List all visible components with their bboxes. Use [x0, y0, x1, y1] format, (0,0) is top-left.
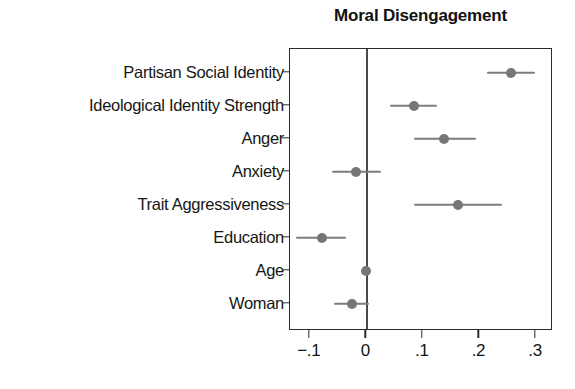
chart-title: Moral Disengagement	[289, 6, 552, 26]
y-axis-tick	[282, 137, 289, 138]
point-estimate-marker	[506, 68, 516, 78]
point-estimate-marker	[453, 200, 463, 210]
zero-reference-line	[366, 49, 367, 329]
point-estimate-marker	[439, 134, 449, 144]
y-axis-category-label: Trait Aggressiveness	[137, 195, 284, 212]
y-axis-category-label: Ideological Identity Strength	[89, 96, 284, 113]
x-axis-tick-label: .3	[528, 341, 542, 361]
y-axis-tick	[282, 302, 289, 303]
y-axis-tick	[282, 269, 289, 270]
y-axis-tick	[282, 170, 289, 171]
x-axis-tick-label: .1	[415, 341, 429, 361]
point-estimate-marker	[317, 233, 327, 243]
y-axis-tick	[282, 71, 289, 72]
point-estimate-marker	[409, 101, 419, 111]
y-axis-tick	[282, 104, 289, 105]
x-axis-tick	[308, 330, 309, 338]
coefficient-plot-figure: Moral Disengagement Partisan Social Iden…	[0, 0, 575, 389]
x-axis-tick-label: 0	[361, 341, 370, 361]
y-axis-category-label: Education	[213, 228, 284, 245]
y-axis-tick	[282, 236, 289, 237]
x-axis-tick	[478, 330, 479, 338]
x-axis-tick	[365, 330, 366, 338]
y-axis-category-label: Woman	[229, 294, 284, 311]
y-axis-category-label: Age	[256, 261, 284, 278]
x-axis-tick-label: −.1	[297, 341, 320, 361]
point-estimate-marker	[351, 167, 361, 177]
x-axis-tick-label: .2	[472, 341, 486, 361]
x-axis-tick	[421, 330, 422, 338]
point-estimate-marker	[361, 266, 371, 276]
y-axis-tick	[282, 203, 289, 204]
y-axis-category-label: Anger	[241, 129, 284, 146]
x-axis-tick	[534, 330, 535, 338]
point-estimate-marker	[347, 299, 357, 309]
plot-area	[289, 48, 552, 330]
y-axis-category-label: Partisan Social Identity	[123, 63, 284, 80]
y-axis-category-label: Anxiety	[232, 162, 284, 179]
